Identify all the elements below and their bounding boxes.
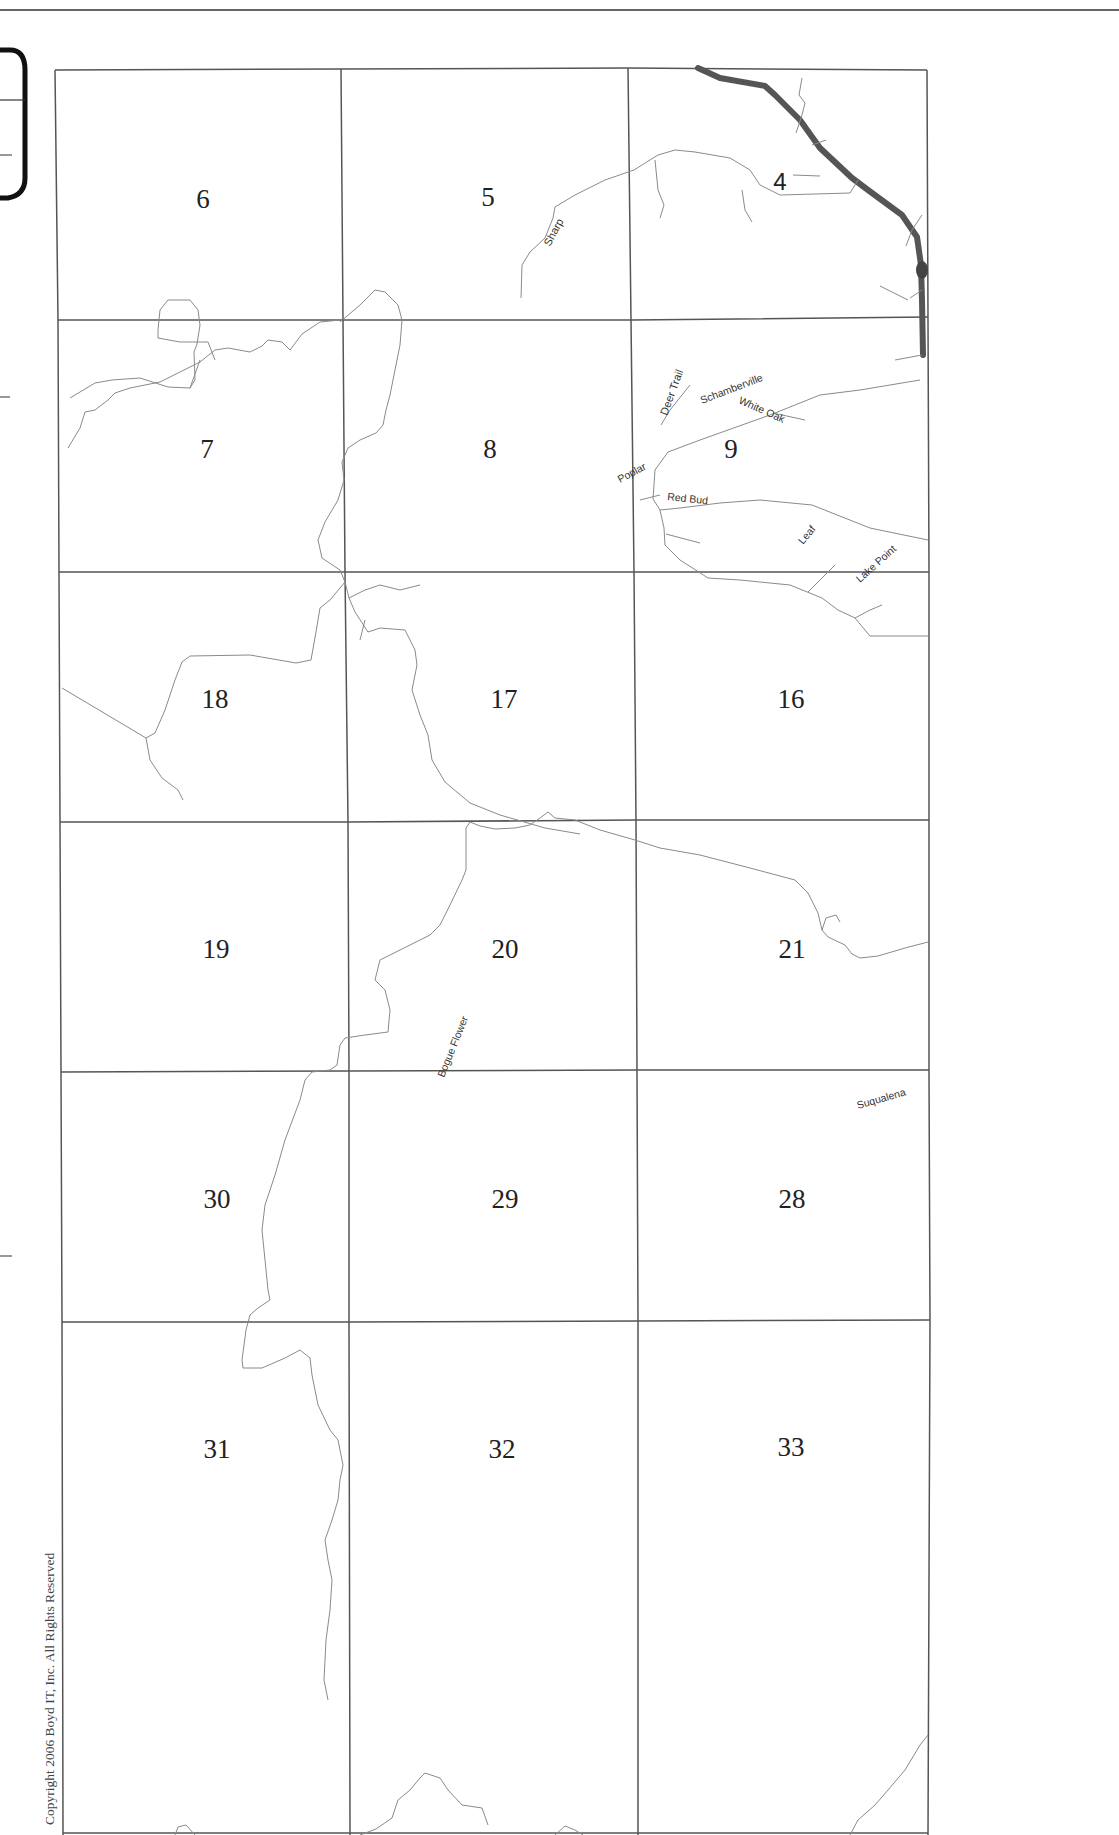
copyright-notice: Copyright 2006 Boyd IT, Inc. All Rights … bbox=[42, 1553, 58, 1825]
section-number: 9 bbox=[724, 434, 738, 464]
road-label-lake-point: Lake Point bbox=[853, 542, 898, 584]
left-margin-bracket bbox=[0, 50, 25, 1256]
section-number: 29 bbox=[492, 1184, 519, 1214]
section-number: 30 bbox=[204, 1184, 231, 1214]
section-number: 8 bbox=[483, 434, 497, 464]
section-number: 6 bbox=[196, 184, 210, 214]
road-label-sharp: Sharp bbox=[541, 216, 565, 248]
section-number: 18 bbox=[202, 684, 229, 714]
road-label-poplar: Poplar bbox=[615, 460, 648, 485]
road-label-red-bud: Red Bud bbox=[667, 490, 709, 506]
section-number: 21 bbox=[779, 934, 806, 964]
section-number: 31 bbox=[204, 1434, 231, 1464]
section-number: 7 bbox=[200, 434, 214, 464]
section-number: 19 bbox=[203, 934, 230, 964]
section-number: 5 bbox=[481, 182, 495, 212]
section-number: 20 bbox=[492, 934, 519, 964]
section-number: 16 bbox=[778, 684, 805, 714]
road-label-leaf: Leaf bbox=[795, 523, 817, 546]
section-number: 33 bbox=[778, 1432, 805, 1462]
section-numbers: 6 5 4 7 8 9 18 17 16 19 20 21 30 29 28 3… bbox=[196, 168, 805, 1464]
highway bbox=[698, 68, 928, 355]
road-labels: Sharp Deer Trail Schamberville White Oak… bbox=[435, 216, 907, 1111]
section-number: 4 bbox=[773, 168, 786, 195]
section-map: 6 5 4 7 8 9 18 17 16 19 20 21 30 29 28 3… bbox=[0, 0, 1119, 1835]
road-label-bogue-flower: Bogue Flower bbox=[435, 1014, 471, 1079]
road-label-deer-trail: Deer Trail bbox=[658, 368, 686, 417]
section-number: 32 bbox=[489, 1434, 516, 1464]
road-label-suqualena: Suqualena bbox=[855, 1086, 907, 1111]
road-label-white-oak: White Oak bbox=[737, 394, 787, 425]
section-number: 28 bbox=[779, 1184, 806, 1214]
section-number: 17 bbox=[491, 684, 518, 714]
